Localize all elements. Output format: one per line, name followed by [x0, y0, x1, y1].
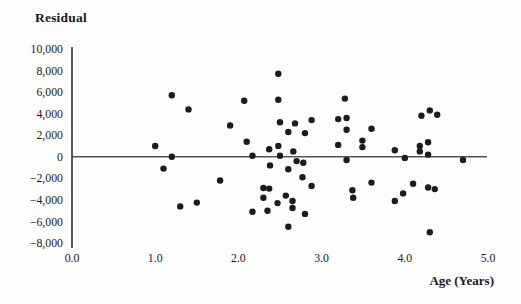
- data-point: [277, 119, 283, 125]
- data-point: [249, 153, 255, 159]
- data-point: [292, 120, 298, 126]
- data-point: [300, 160, 306, 166]
- y-tick-label: 8,000: [36, 64, 63, 78]
- data-point: [283, 192, 289, 198]
- data-point: [177, 203, 183, 209]
- data-point: [392, 198, 398, 204]
- data-point: [169, 154, 175, 160]
- data-point: [267, 162, 273, 168]
- data-point: [302, 130, 308, 136]
- data-point: [152, 143, 158, 149]
- data-point: [285, 129, 291, 135]
- data-point: [160, 165, 166, 171]
- y-tick-label: −4,000: [30, 193, 63, 207]
- scatter-plot-canvas: 10,0008,0006,0004,0002,0000−2,000−4,000−…: [0, 0, 521, 304]
- x-tick-label: 3.0: [314, 251, 329, 265]
- data-point: [185, 106, 191, 112]
- data-point: [359, 144, 365, 150]
- data-point: [427, 107, 433, 113]
- data-point: [308, 183, 314, 189]
- data-point: [368, 126, 374, 132]
- x-tick-label: 0.0: [65, 251, 80, 265]
- data-point: [425, 151, 431, 157]
- data-point: [417, 148, 423, 154]
- data-point: [418, 113, 424, 119]
- data-point: [264, 208, 270, 214]
- data-point: [277, 153, 283, 159]
- data-point: [260, 195, 266, 201]
- data-point: [289, 205, 295, 211]
- data-point: [432, 186, 438, 192]
- data-point: [299, 174, 305, 180]
- data-point: [169, 92, 175, 98]
- data-point: [392, 147, 398, 153]
- x-tick-label: 1.0: [148, 251, 163, 265]
- data-point: [275, 143, 281, 149]
- x-tick-label: 2.0: [231, 251, 246, 265]
- data-point: [275, 71, 281, 77]
- data-point: [290, 148, 296, 154]
- data-point: [335, 116, 341, 122]
- y-tick-label: 4,000: [36, 107, 63, 121]
- data-point: [260, 185, 266, 191]
- data-point: [460, 157, 466, 163]
- data-point: [285, 166, 291, 172]
- data-point: [266, 146, 272, 152]
- data-point: [343, 115, 349, 121]
- data-point: [400, 190, 406, 196]
- y-tick-label: −8,000: [30, 236, 63, 250]
- data-point: [244, 139, 250, 145]
- data-point: [274, 200, 280, 206]
- data-point: [427, 229, 433, 235]
- data-point: [217, 177, 223, 183]
- y-tick-label: 6,000: [36, 85, 63, 99]
- data-point: [349, 187, 355, 193]
- x-tick-label: 4.0: [397, 251, 412, 265]
- data-point: [342, 95, 348, 101]
- data-point: [266, 185, 272, 191]
- x-tick-label: 5.0: [481, 251, 496, 265]
- data-point: [285, 224, 291, 230]
- y-tick-label: −2,000: [30, 171, 63, 185]
- x-axis-title: Age (Years): [429, 273, 494, 289]
- residual-scatter-figure: Residual 10,0008,0006,0004,0002,0000−2,0…: [0, 0, 521, 304]
- data-point: [410, 181, 416, 187]
- data-point: [425, 184, 431, 190]
- data-point: [335, 142, 341, 148]
- data-point: [350, 195, 356, 201]
- data-point: [249, 209, 255, 215]
- y-tick-label: 2,000: [36, 128, 63, 142]
- data-point: [368, 179, 374, 185]
- data-point: [302, 211, 308, 217]
- data-point: [241, 98, 247, 104]
- data-point: [289, 198, 295, 204]
- data-point: [434, 112, 440, 118]
- data-point: [343, 157, 349, 163]
- data-point: [359, 137, 365, 143]
- y-tick-label: 0: [57, 150, 63, 164]
- data-point: [194, 199, 200, 205]
- data-point: [293, 158, 299, 164]
- y-tick-label: 10,000: [31, 42, 64, 56]
- y-tick-label: −6,000: [30, 215, 63, 229]
- data-point: [308, 117, 314, 123]
- data-point: [343, 127, 349, 133]
- data-point: [227, 122, 233, 128]
- data-point: [275, 97, 281, 103]
- data-point: [425, 139, 431, 145]
- data-point: [402, 155, 408, 161]
